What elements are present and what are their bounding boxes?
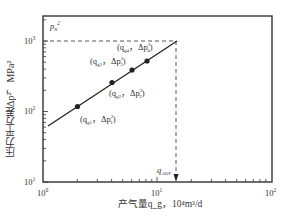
point-label-2: (qg2，Δp22) (109, 88, 145, 99)
point-label-4: (qg4，Δp24) (117, 42, 153, 53)
svg-text:102: 102 (24, 105, 36, 116)
data-point-3 (129, 67, 134, 72)
qaof-label: qAOF (157, 165, 171, 176)
y-tick-labels: 103 102 101 (24, 35, 36, 187)
svg-text:102: 102 (265, 187, 277, 198)
data-point-2 (109, 80, 114, 85)
x-ticks (77, 177, 265, 182)
svg-text:101: 101 (24, 176, 36, 187)
x-axis-label: 产气量q_g，10⁴m³/d (100, 196, 220, 210)
svg-text:100: 100 (37, 187, 49, 198)
qaof-arrow-icon (174, 174, 179, 182)
point-labels: (qg4，Δp24) (qg3，Δp23) (qg2，Δp22) (qg1，Δp… (80, 42, 153, 125)
pr-label: pR2 (49, 20, 60, 32)
point-label-1: (qg1，Δp21) (80, 114, 116, 125)
data-point-1 (75, 104, 80, 109)
y-ticks (43, 20, 48, 182)
data-point-4 (144, 58, 149, 63)
deliverability-chart: 103 102 101 100 101 102 pR2 (qg4，Δp24) (… (0, 0, 285, 224)
y-axis-label: 压力平方差Δp²，MPa² (4, 44, 18, 174)
point-label-3: (qg3，Δp23) (90, 56, 126, 67)
svg-text:103: 103 (24, 35, 36, 46)
